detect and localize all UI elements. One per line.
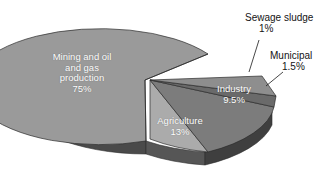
slice-label-industry-name: Industry [217,83,251,94]
slice-value-mining: 75% [72,83,91,94]
slice-value-municipal: 1.5% [282,61,312,72]
leader-line-sewage [249,40,259,72]
slice-label-municipal-name: Municipal [270,50,312,61]
slice-label-industry: Industry 9.5% [197,84,271,105]
slice-callout-sewage-sludge: Sewage sludge 1% [245,12,313,34]
slice-value-agriculture: 13% [170,126,189,137]
slice-label-mining: Mining and oil and gas production 75% [34,52,130,95]
slice-label-mining-line3: production [60,72,104,83]
slice-label-mining-line2: and gas [65,62,99,73]
slice-label-mining-line1: Mining and oil [53,51,112,62]
slice-label-agriculture-name: Agriculture [157,115,202,126]
slice-value-industry: 9.5% [223,94,245,105]
pie-chart-figure: Mining and oil and gas production 75% Ag… [0,0,335,181]
slice-label-agriculture: Agriculture 13% [139,116,221,137]
slice-label-sewage-name: Sewage sludge [245,12,313,23]
slice-value-sewage: 1% [259,23,313,34]
slice-callout-municipal: Municipal 1.5% [270,50,312,72]
